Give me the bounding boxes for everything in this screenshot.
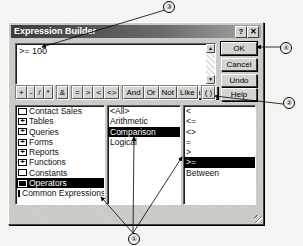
callout-1: ① [128,233,140,245]
callout-2: ② [283,97,295,109]
callout-4: ④ [280,42,292,54]
callout-arrows [0,0,303,246]
callout-3: ③ [163,1,175,13]
